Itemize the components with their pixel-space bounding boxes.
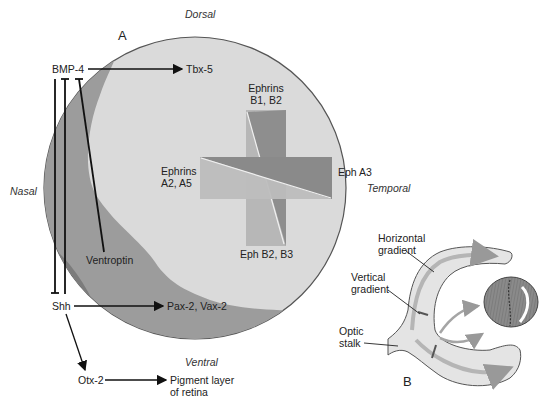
- dorsal-label: Dorsal: [185, 8, 216, 20]
- tbx5-label: Tbx-5: [186, 63, 213, 75]
- optic-cup-diagram: [388, 247, 538, 386]
- eph-b2b3-label: Eph B2, B3: [240, 248, 293, 260]
- pax2-vax2-label: Pax-2, Vax-2: [167, 300, 227, 312]
- ventral-label: Ventral: [185, 356, 219, 368]
- panel-b-label: B: [403, 374, 412, 389]
- pigment-layer-label-1: Pigment layer: [170, 374, 235, 386]
- temporal-label: Temporal: [367, 182, 411, 194]
- otx2-label: Otx-2: [78, 374, 104, 386]
- eph-a3-label: Eph A3: [338, 166, 372, 178]
- vertical-gradient-label-2: gradient: [351, 283, 389, 295]
- optic-stalk-label-1: Optic: [339, 325, 364, 337]
- retina-circle: [0, 0, 360, 400]
- bmp4-label: BMP-4: [52, 63, 84, 75]
- horizontal-gradient-label-1: Horizontal: [378, 232, 425, 244]
- ventroptin-label: Ventroptin: [86, 254, 133, 266]
- optic-stalk-label-2: stalk: [339, 337, 361, 349]
- nasal-label: Nasal: [10, 185, 38, 197]
- ephrins-b1b2-label-2: B1, B2: [250, 94, 282, 106]
- eye-patterning-diagram: A Dorsal Ventral Nasal Temporal BMP-4 Tb…: [0, 0, 543, 406]
- vertical-gradient-label-1: Vertical: [351, 271, 385, 283]
- ephrins-a2a5-label-2: A2, A5: [161, 177, 192, 189]
- pigment-layer-label-2: of retina: [170, 386, 208, 398]
- shh-label: Shh: [52, 300, 71, 312]
- panel-a-label: A: [118, 28, 127, 43]
- ephrins-b1b2-label-1: Ephrins: [248, 82, 284, 94]
- shh-activates-otx2-arrow: [66, 314, 85, 370]
- ephrins-a2a5-label-1: Ephrins: [161, 165, 197, 177]
